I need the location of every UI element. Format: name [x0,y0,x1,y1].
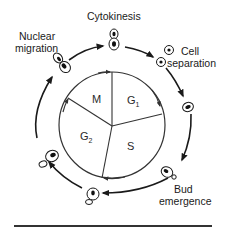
phase-label-m: M [92,93,101,105]
arrow-nuclear-to-cytokinesis [69,46,103,60]
divider-s-g2 [102,126,112,178]
phase-label-s: S [127,140,134,152]
arrow-bud-to-budded [103,178,168,193]
cell-g1-icon [181,101,194,113]
bottom-rule [14,225,212,227]
label-cell: Cell [181,45,199,57]
arrow-budded-to-large-bud [49,162,82,188]
divider-g1-s [112,114,162,126]
arrow-large-bud-to-nuclear [36,77,52,138]
inner-phase-circle [59,72,165,179]
cell-nuclear-migration-icon [51,51,72,75]
divider-g2-m [68,98,112,126]
arrow-separation-to-g1cell [166,68,183,96]
phase-label-g1: G1 [127,94,140,108]
phase-label-g2: G2 [80,130,93,144]
label-cytokinesis: Cytokinesis [87,10,141,22]
label-nuclear: Nuclear [19,30,56,42]
cell-cytokinesis-icon [109,29,119,50]
cell-cycle-diagram: M G1 S G2 Cytokinesis Cel [0,0,227,228]
label-emergence: emergence [159,195,212,207]
arrow-g1cell-to-bud [182,114,191,160]
arrow-cytokinesis-to-separation [125,47,153,57]
label-separation: separation [167,57,216,69]
label-bud: Bud [174,183,193,195]
cell-small-bud-icon [86,188,100,205]
cell-large-bud-icon [38,149,60,169]
label-migration: migration [15,42,58,54]
cell-bud-emergence-icon [159,165,176,180]
